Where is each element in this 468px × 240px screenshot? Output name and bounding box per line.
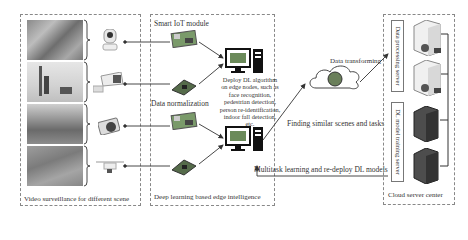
- dl-training-server-label: DL model training server: [391, 102, 404, 182]
- bullet-camera-icon: [93, 72, 125, 94]
- dev-board-icon: [170, 158, 198, 176]
- data-normalization-label: Data normalization: [151, 100, 209, 108]
- edge-computer-icon: [225, 48, 265, 74]
- data-transforming-label: Data transforming: [330, 58, 381, 65]
- deploy-description: Deploy DL algorithm on edge nodes, such …: [211, 76, 289, 128]
- scene-photo-indoor: [27, 20, 83, 60]
- white-server-icon: [412, 60, 442, 96]
- drone-icon: [94, 158, 126, 176]
- dark-server-icon: [412, 148, 440, 184]
- edge-computer-icon: [225, 126, 265, 152]
- smart-iot-module-label: Smart IoT module: [154, 20, 209, 28]
- deploy-line: pedestrian detection,: [211, 98, 289, 105]
- deploy-line: face recognition,: [211, 91, 289, 98]
- dev-board-icon: [170, 78, 198, 96]
- scene-photo-street: [27, 62, 83, 102]
- deploy-line: Deploy DL algorithm: [211, 76, 289, 83]
- cloud-panel-caption: Cloud server center: [388, 192, 443, 199]
- raspberry-pi-board-icon: [170, 30, 198, 48]
- scene-photo-park: [27, 104, 83, 144]
- white-server-icon: [412, 20, 442, 56]
- dome-camera-icon: [101, 29, 119, 51]
- finding-similar-label: Finding similar scenes and tasks: [287, 120, 384, 128]
- cloud-icon: [306, 62, 364, 92]
- compact-camera-icon: [98, 117, 120, 135]
- deploy-line: on edge nodes, such as: [211, 83, 289, 90]
- deploy-line: indoor fall detection,: [211, 113, 289, 120]
- raspberry-pi-board-icon: [170, 112, 198, 130]
- scene-photo-aerial: [27, 146, 83, 186]
- video-panel-caption: Video surveillance for different scene: [24, 196, 129, 203]
- feedback-label: Multitask learning and re-deploy DL mode…: [254, 166, 388, 174]
- deploy-line: person re-identification,: [211, 106, 289, 113]
- dark-server-icon: [412, 106, 440, 142]
- data-processing-server-label: Data processing server: [391, 20, 404, 92]
- edge-panel-caption: Deep learning based edge intelligence: [154, 194, 261, 201]
- deploy-line: etc.: [211, 120, 289, 127]
